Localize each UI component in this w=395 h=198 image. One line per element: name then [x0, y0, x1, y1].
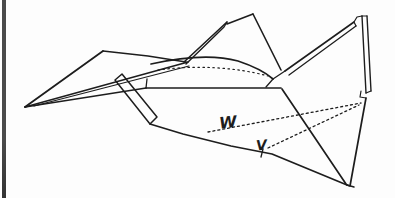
- diagram-lines: [25, 14, 371, 187]
- center-spike-left-edge: [184, 22, 227, 62]
- body-to-wing-connector: [273, 71, 285, 79]
- point-label-w: W: [218, 112, 239, 133]
- point-label-v: V: [255, 137, 268, 154]
- body-top-curve: [151, 57, 273, 79]
- right-wing-leading-edge-outer: [285, 22, 354, 71]
- center-peak-right-edge: [253, 14, 281, 70]
- right-strip-right-edge: [367, 16, 371, 91]
- left-wing-trailing-edge-inner: [34, 66, 189, 106]
- right-wing-peak-notch: [354, 16, 362, 26]
- bottom-edge: [150, 124, 347, 185]
- body-left-edge: [146, 79, 147, 88]
- right-edge: [347, 98, 366, 186]
- right-strip-foot-notch: [360, 91, 366, 98]
- origami-diagram: W V: [0, 0, 395, 198]
- body-crease-dotted: [158, 67, 268, 76]
- fold-line-v: [268, 105, 359, 148]
- right-strip-left-edge: [362, 16, 366, 93]
- keel-strip: [115, 74, 157, 124]
- scanned-page: W V: [0, 0, 395, 198]
- center-peak-left-edge: [227, 14, 253, 24]
- body-rear-notch: [266, 79, 273, 87]
- right-wing-leading-edge-inner: [289, 26, 356, 75]
